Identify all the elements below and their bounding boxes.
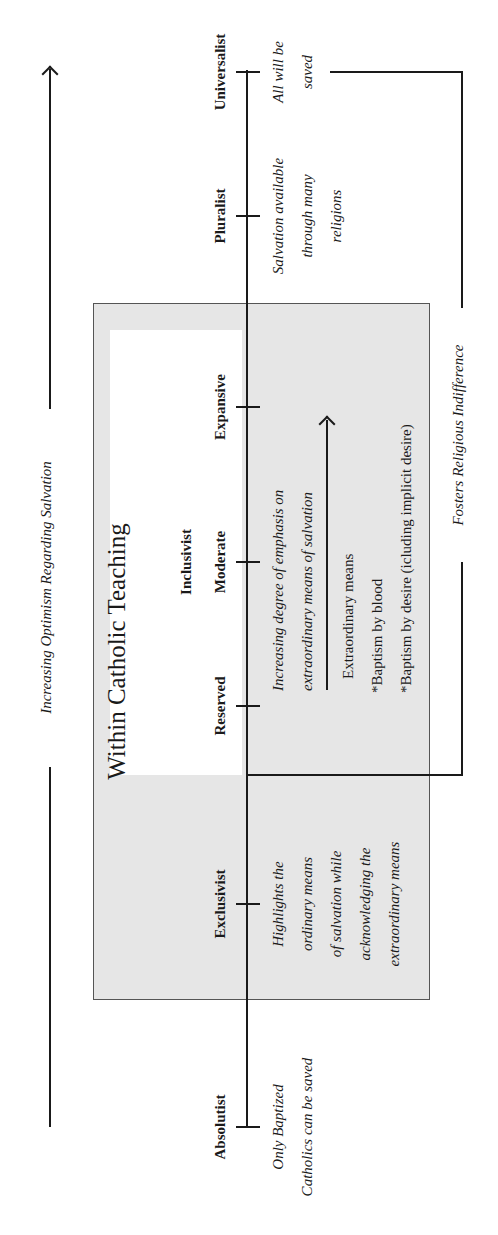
tick-moderate	[236, 561, 260, 563]
means-heading: Extraordinary means	[334, 373, 363, 693]
inclusivist-heading: Inclusivist	[178, 529, 195, 595]
emphasis-arrow-line	[326, 420, 328, 690]
desc-universalist: All will be saved	[264, 22, 322, 122]
optimism-arrow-icon	[42, 66, 59, 83]
tick-expansive	[236, 406, 260, 408]
bracket-line-left	[461, 562, 463, 776]
indifference-label: Fosters Religious Indifference	[450, 310, 467, 560]
label-reserved: Reserved	[212, 676, 229, 735]
optimism-label: Increasing Optimism Regarding Salvation	[38, 410, 55, 765]
label-expansive: Expansive	[212, 374, 229, 440]
salvation-spectrum-diagram: Increasing Optimism Regarding Salvation …	[0, 0, 498, 1235]
means-item-blood: *Baptism by blood	[363, 373, 392, 693]
optimism-line-right	[49, 69, 51, 409]
label-absolutist: Absolutist	[212, 1094, 229, 1159]
means-item-desire: *Baptism by desire (icluding implicit de…	[392, 373, 421, 693]
label-exclusivist: Exclusivist	[212, 869, 229, 938]
desc-absolutist: Only Baptized Catholics can be saved	[264, 1037, 322, 1217]
catholic-teaching-title: Within Catholic Teaching	[103, 303, 131, 1000]
emphasis-note: Increasing degree of emphasis on extraor…	[264, 391, 322, 691]
desc-exclusivist: Highlights the ordinary means of salvati…	[264, 814, 409, 994]
spectrum-axis	[246, 70, 248, 1127]
label-pluralist: Pluralist	[212, 189, 229, 244]
tick-exclusivist	[236, 903, 260, 905]
extraordinary-means-list: Extraordinary means *Baptism by blood *B…	[334, 373, 421, 693]
bracket-drop-left	[247, 774, 463, 776]
optimism-line-left	[49, 767, 51, 1127]
label-moderate: Moderate	[212, 531, 229, 593]
tick-reserved	[236, 705, 260, 707]
bracket-line-right	[461, 71, 463, 308]
label-universalist: Universalist	[212, 34, 229, 111]
desc-pluralist: Salvation available through many religio…	[264, 131, 351, 301]
bracket-drop-right	[330, 71, 463, 73]
tick-universalist	[236, 71, 260, 73]
tick-absolutist	[236, 1126, 260, 1128]
tick-pluralist	[236, 215, 260, 217]
